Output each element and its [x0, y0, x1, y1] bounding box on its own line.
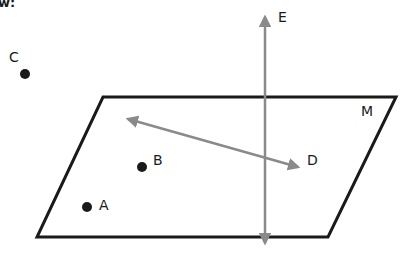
plane-m — [37, 97, 396, 237]
label-c: C — [9, 49, 19, 65]
point-c — [20, 69, 30, 79]
label-a: A — [99, 197, 109, 213]
point-a — [82, 202, 92, 212]
partial-heading-text: w: — [0, 0, 15, 10]
label-m: M — [361, 103, 373, 119]
geometry-diagram: w: C E M B D A — [0, 0, 400, 257]
label-e: E — [278, 9, 287, 25]
label-b: B — [153, 152, 163, 168]
point-b — [137, 162, 147, 172]
label-d: D — [307, 152, 318, 168]
